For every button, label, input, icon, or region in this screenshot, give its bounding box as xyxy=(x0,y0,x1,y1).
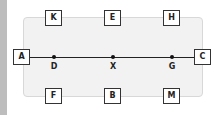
box-bottom-right: M xyxy=(163,88,180,104)
box-top-left: K xyxy=(45,10,62,26)
box-bottom-left: F xyxy=(45,88,62,104)
box-bottom-center: B xyxy=(104,88,121,104)
point-label-left: D xyxy=(48,63,60,71)
box-left: A xyxy=(13,49,30,65)
point-label-right: G xyxy=(166,63,178,71)
point-dot-left xyxy=(52,55,56,59)
point-label-center: X xyxy=(107,63,119,71)
box-right: C xyxy=(194,49,211,65)
box-top-right: H xyxy=(163,10,180,26)
left-edge-strip xyxy=(0,0,7,115)
point-dot-right xyxy=(170,55,174,59)
point-dot-center xyxy=(111,55,115,59)
box-top-center: E xyxy=(104,10,121,26)
